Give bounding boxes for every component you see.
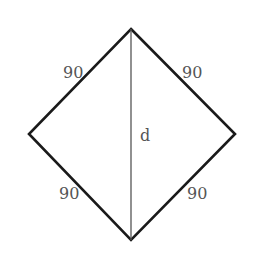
rhombus-figure [0, 0, 253, 254]
diagonal-label: d [140, 128, 150, 144]
rhombus-outline [29, 29, 235, 240]
side-label-bottom-right: 90 [187, 186, 207, 202]
side-label-top-left: 90 [63, 65, 83, 81]
rhombus-diagram: 90 90 90 90 d [0, 0, 253, 254]
side-label-top-right: 90 [182, 65, 202, 81]
side-label-bottom-left: 90 [59, 186, 79, 202]
